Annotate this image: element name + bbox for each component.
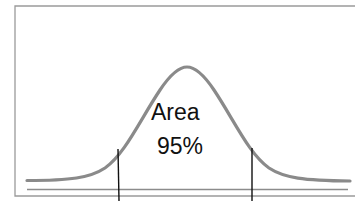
left-bound-line (118, 149, 119, 201)
area-label: Area (151, 101, 200, 124)
area-value: 95% (157, 135, 203, 158)
